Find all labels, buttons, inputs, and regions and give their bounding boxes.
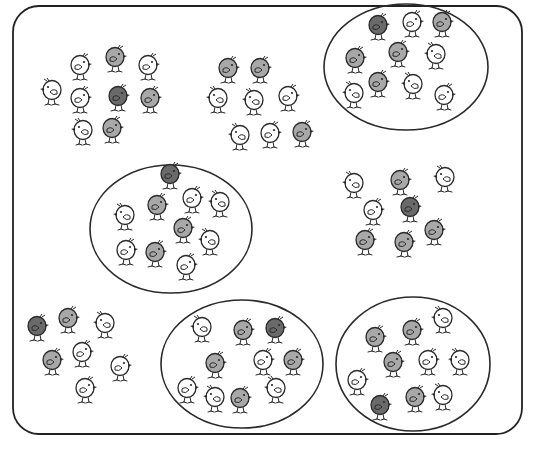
chick-icon xyxy=(71,53,92,80)
chick-icon xyxy=(43,348,64,375)
chick-icon xyxy=(106,45,127,72)
chick-icon xyxy=(219,56,240,83)
chick-icon xyxy=(59,306,80,333)
chick-icon xyxy=(384,350,405,377)
group-middle-left xyxy=(113,162,229,280)
chick-icon xyxy=(117,238,138,265)
chick-icon xyxy=(93,311,114,338)
group-bottom-left xyxy=(28,306,132,403)
chicks xyxy=(28,10,469,420)
chick-icon xyxy=(139,53,160,80)
chick-icon xyxy=(424,42,445,69)
chick-icon xyxy=(206,351,227,378)
chick-icon xyxy=(266,316,287,343)
chick-icon xyxy=(261,121,282,148)
group-bottom-middle xyxy=(178,315,305,413)
chick-icon xyxy=(254,348,275,375)
chick-icon xyxy=(342,81,363,108)
chick-icon xyxy=(264,376,285,403)
chick-icon xyxy=(284,348,305,375)
chick-icon xyxy=(71,118,92,145)
chick-icon xyxy=(401,195,422,222)
chick-icon xyxy=(234,318,255,345)
chick-icon xyxy=(403,318,424,345)
chick-icon xyxy=(279,84,300,111)
chick-icon xyxy=(371,393,392,420)
chick-icon xyxy=(190,315,211,342)
chick-icon xyxy=(431,383,452,410)
chick-icon xyxy=(366,325,387,352)
chick-icon xyxy=(198,228,219,255)
chick-icon xyxy=(242,88,263,115)
chick-icon xyxy=(76,376,97,403)
chick-icon xyxy=(369,70,390,97)
chick-icon xyxy=(448,348,469,375)
chick-icon xyxy=(206,86,227,113)
chick-icon xyxy=(364,198,385,225)
chick-icon xyxy=(406,385,427,412)
chick-icon xyxy=(346,46,367,73)
chick-icon xyxy=(28,314,49,341)
chick-icon xyxy=(425,218,446,245)
chick-icon xyxy=(356,228,377,255)
chick-icon xyxy=(403,10,424,37)
chick-icon xyxy=(113,203,134,230)
group-circle xyxy=(90,165,252,293)
chick-icon xyxy=(231,386,252,413)
chick-icon xyxy=(435,83,456,110)
chick-icon xyxy=(109,84,130,111)
chick-icon xyxy=(433,165,454,192)
chick-icon xyxy=(391,168,412,195)
chick-groups-diagram xyxy=(0,0,534,449)
chick-icon xyxy=(369,13,390,40)
group-top-left xyxy=(40,45,162,145)
chick-icon xyxy=(419,348,440,375)
group-top-right xyxy=(342,10,456,110)
chick-icon xyxy=(177,253,198,280)
chick-icon xyxy=(293,120,314,147)
chick-icon xyxy=(208,190,229,217)
chick-icon xyxy=(342,171,363,198)
chick-icon xyxy=(111,354,132,381)
chick-icon xyxy=(348,368,369,395)
chick-icon xyxy=(40,78,61,105)
chick-icon xyxy=(73,340,94,367)
chick-icon xyxy=(148,193,169,220)
chick-icon xyxy=(183,186,204,213)
chick-icon xyxy=(228,123,249,150)
chick-icon xyxy=(146,240,167,267)
chick-icon xyxy=(251,56,272,83)
chick-icon xyxy=(401,72,422,99)
chick-icon xyxy=(431,306,452,333)
chick-icon xyxy=(203,385,224,412)
group-middle-right xyxy=(342,165,454,257)
chick-icon xyxy=(389,40,410,67)
chick-icon xyxy=(178,376,199,403)
chick-icon xyxy=(71,86,92,113)
chick-icon xyxy=(141,86,162,113)
group-top-middle xyxy=(206,56,314,150)
chick-icon xyxy=(103,116,124,143)
chick-icon xyxy=(395,230,416,257)
chick-icon xyxy=(174,216,195,243)
group-bottom-right xyxy=(348,306,469,420)
